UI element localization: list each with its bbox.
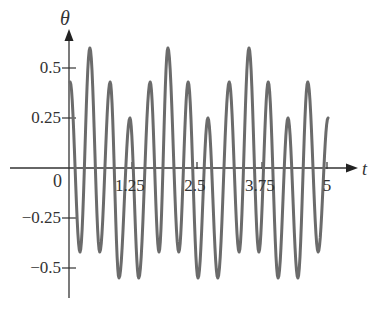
y-axis-arrow-icon (65, 29, 74, 41)
y-axis-label: θ (60, 8, 70, 28)
origin-label: 0 (53, 172, 62, 190)
x-tick-label: 5 (323, 177, 332, 194)
y-tick-label: 0.5 (40, 59, 61, 76)
y-tick-label: −0.25 (22, 209, 61, 226)
x-tick-label: 3.75 (245, 177, 275, 194)
theta-curve (70, 48, 328, 278)
x-axis-arrow-icon (346, 164, 358, 173)
x-tick-label: 2.5 (184, 177, 205, 194)
y-tick-label: 0.25 (31, 109, 61, 126)
y-tick-label: −0.5 (30, 259, 61, 276)
x-axis-label: t (362, 160, 367, 178)
x-tick-label: 1.25 (115, 177, 145, 194)
